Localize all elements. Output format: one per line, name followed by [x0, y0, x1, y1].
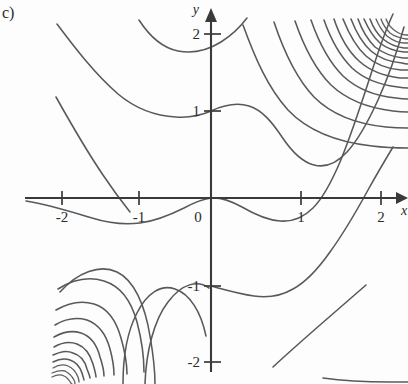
y-axis-arrow — [205, 8, 217, 22]
y-ticklabel--2: -2 — [188, 354, 201, 370]
x-ticklabel-2: 2 — [377, 209, 385, 225]
level-curve-upper-left-descending — [57, 24, 404, 166]
x-ticklabel-1: 1 — [297, 209, 305, 225]
figure-panel: -2 -1 0 1 2 2 1 -1 -2 y x c) — [0, 0, 408, 384]
y-ticklabel-2: 2 — [193, 26, 201, 42]
y-axis-label: y — [191, 2, 200, 17]
level-curve-axis-wave — [26, 14, 393, 224]
contour-plot: -2 -1 0 1 2 2 1 -1 -2 y x c) — [0, 0, 408, 384]
x-axis-label: x — [400, 203, 408, 218]
x-ticklabel--2: -2 — [56, 209, 69, 225]
y-ticklabel--1: -1 — [188, 278, 201, 294]
panel-label: c) — [2, 4, 14, 22]
level-curve-lower-right-lowermost — [323, 378, 408, 382]
x-ticklabel-0: 0 — [194, 209, 202, 225]
y-ticklabel-1: 1 — [193, 103, 201, 119]
level-curve-lower-right-diagonal — [273, 285, 366, 367]
level-curve-steep-left-falling — [56, 97, 130, 212]
x-ticklabel--1: -1 — [133, 209, 146, 225]
axes — [25, 8, 408, 372]
contour-family-lower-mid — [60, 269, 206, 384]
